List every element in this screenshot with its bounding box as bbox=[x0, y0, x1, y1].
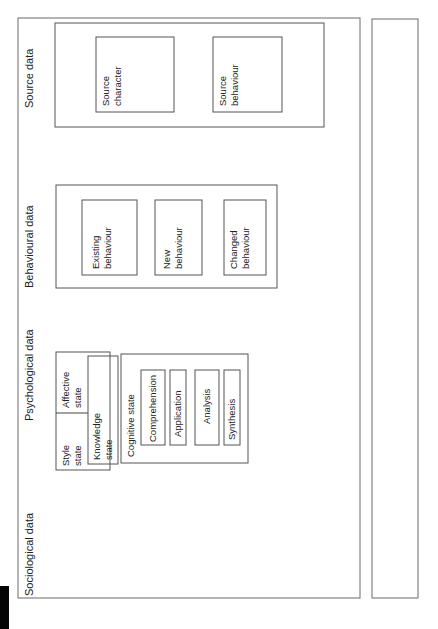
source-behaviour-label-2: behaviour bbox=[229, 64, 240, 106]
new-behaviour-label-2: behaviour bbox=[173, 227, 184, 269]
section-psychological: Psychological data bbox=[23, 328, 35, 421]
knowledge-state-label-1: Knowledge bbox=[91, 413, 102, 460]
source-behaviour-label-1: Source bbox=[217, 76, 228, 106]
affective-state-label-2: state bbox=[72, 387, 83, 408]
edge-artifact bbox=[0, 586, 9, 629]
framework-diagram-render: Sociological data Psychological data Beh… bbox=[0, 0, 438, 629]
style-state-label-1: Style bbox=[60, 445, 71, 466]
new-behaviour-label-1: New bbox=[161, 250, 172, 269]
section-sociological: Sociological data bbox=[23, 512, 35, 596]
synthesis-label: Synthesis bbox=[226, 399, 237, 440]
comprehension-label: Comprehension bbox=[147, 375, 158, 442]
changed-behaviour-label-2: behaviour bbox=[240, 227, 251, 269]
analysis-label: Analysis bbox=[201, 388, 212, 424]
style-state-label-2: state bbox=[72, 445, 83, 466]
changed-behaviour-label-1: Changed bbox=[228, 230, 239, 269]
existing-behaviour-label-1: Existing bbox=[90, 236, 101, 269]
cognitive-state-title: Cognitive state bbox=[125, 394, 136, 457]
source-character-label-2: character bbox=[112, 66, 123, 106]
existing-behaviour-label-2: behaviour bbox=[102, 227, 113, 269]
section-source: Source data bbox=[23, 48, 35, 108]
affective-state-label-1: Affective bbox=[60, 372, 71, 408]
source-character-label-1: Source bbox=[100, 76, 111, 106]
application-label: Application bbox=[172, 391, 183, 437]
section-behavioural: Behavioural data bbox=[23, 205, 35, 288]
knowledge-state-label-2: state bbox=[103, 439, 114, 460]
